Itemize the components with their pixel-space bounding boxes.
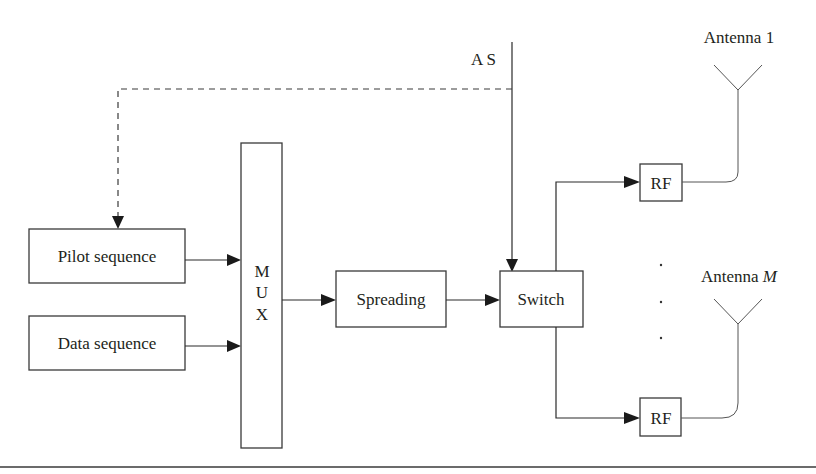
- switch-label: Switch: [517, 290, 565, 309]
- arrow-into-switch-icon: [506, 259, 518, 272]
- arrow-spreading-switch-icon: [485, 294, 500, 306]
- rf-top-to-antenna-1-line: [682, 90, 738, 182]
- antenna-1-icon: [714, 65, 762, 90]
- switch-to-rf-top-line: [556, 182, 628, 271]
- mux-letter-u: U: [256, 283, 268, 302]
- rf-bottom-label: RF: [651, 409, 672, 428]
- antenna-m-label: Antenna M: [701, 267, 778, 286]
- block-diagram: A S Pilot sequence Data sequence M U X S…: [0, 0, 816, 474]
- pilot-sequence-label: Pilot sequence: [58, 247, 157, 266]
- data-sequence-label: Data sequence: [58, 334, 157, 353]
- arrow-rf-top-icon: [624, 176, 640, 188]
- arrow-into-pilot-icon: [112, 216, 124, 229]
- ellipsis-dot: [660, 337, 662, 339]
- as-label: A S: [471, 50, 496, 69]
- arrow-rf-bottom-icon: [624, 412, 640, 424]
- antenna-m-icon: [714, 299, 762, 324]
- arrow-mux-spreading-icon: [321, 294, 336, 306]
- rf-top-label: RF: [651, 174, 672, 193]
- switch-to-rf-bottom-line: [556, 327, 628, 418]
- antenna-1-label: Antenna 1: [704, 28, 774, 47]
- arrow-data-mux-icon: [227, 340, 241, 352]
- dashed-control-line: [118, 89, 512, 219]
- ellipsis-dot: [660, 264, 662, 266]
- mux-letter-x: X: [256, 305, 268, 324]
- arrow-pilot-mux-icon: [227, 254, 241, 266]
- spreading-label: Spreading: [357, 290, 426, 309]
- rf-bottom-to-antenna-m-line: [681, 324, 738, 418]
- ellipsis-dot: [660, 301, 662, 303]
- mux-letter-m: M: [254, 262, 269, 281]
